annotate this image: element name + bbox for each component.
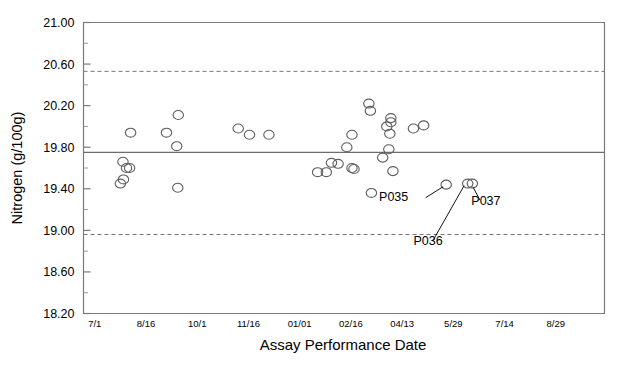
y-tick-label: 20.60 bbox=[43, 58, 74, 72]
y-tick-label: 18.60 bbox=[43, 265, 74, 279]
annotation-P036: P036 bbox=[413, 234, 442, 248]
y-tick-label: 20.20 bbox=[43, 99, 74, 113]
x-tick-label: 7/1 bbox=[88, 318, 101, 329]
x-tick-label: 8/29 bbox=[547, 318, 566, 329]
control-chart: 21.0020.6020.2019.8019.4019.0018.6018.20… bbox=[0, 0, 623, 375]
x-tick-label: 11/16 bbox=[237, 318, 260, 329]
y-tick-label: 19.40 bbox=[43, 182, 74, 196]
y-tick-label: 19.80 bbox=[43, 141, 74, 155]
x-tick-label: 10/1 bbox=[188, 318, 207, 329]
x-tick-label: 04/13 bbox=[390, 318, 414, 329]
y-tick-label: 21.00 bbox=[43, 16, 74, 30]
y-tick-label: 19.00 bbox=[43, 224, 74, 238]
x-tick-label: 7/14 bbox=[495, 318, 514, 329]
annotation-P037: P037 bbox=[471, 194, 500, 208]
x-tick-label: 5/29 bbox=[444, 318, 463, 329]
x-tick-label: 8/16 bbox=[137, 318, 156, 329]
y-axis-title: Nitrogen (g/100g) bbox=[9, 112, 25, 225]
annotation-P035: P035 bbox=[379, 190, 408, 204]
x-tick-label: 01/01 bbox=[288, 318, 312, 329]
y-tick-label: 18.20 bbox=[43, 307, 74, 321]
x-tick-label: 02/16 bbox=[339, 318, 363, 329]
x-axis-title: Assay Performance Date bbox=[260, 336, 427, 353]
chart-canvas: 21.0020.6020.2019.8019.4019.0018.6018.20… bbox=[0, 0, 623, 375]
